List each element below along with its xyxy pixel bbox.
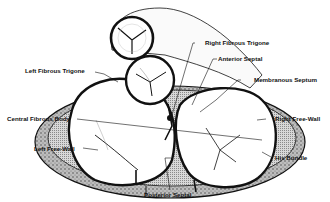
label-right-fibrous-trigone: Right Fibrous Trigone [205, 40, 269, 46]
label-central-fibrous-body: Central Fibrous Body [7, 116, 70, 122]
label-left-free-wall: Left Free-Wall [34, 146, 75, 152]
label-anterior-septal: Anterior Septal [218, 56, 262, 62]
tricuspid-valve [176, 88, 276, 187]
heart-valve-diagram [0, 0, 330, 202]
label-left-fibrous-trigone: Left Fibrous Trigone [25, 68, 85, 74]
label-right-free-wall: Right Free-Wall [275, 116, 320, 122]
label-his-bundle: His Bundle [275, 155, 307, 161]
label-posterior-septal: Posterior Septal [144, 192, 191, 198]
aortic-valve [126, 56, 174, 104]
label-membranous-septum: Membranous Septum [254, 77, 317, 83]
